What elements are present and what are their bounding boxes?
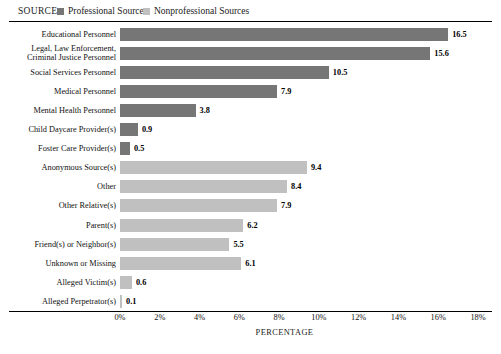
category-label: Other bbox=[0, 182, 116, 191]
bar-value-label: 5.5 bbox=[233, 240, 243, 249]
bar-nonprofessional bbox=[120, 295, 122, 308]
bar-nonprofessional bbox=[120, 257, 241, 270]
bar-with-value: 5.5 bbox=[120, 238, 244, 251]
axis-divider-rule bbox=[9, 311, 492, 312]
category-label: Alleged Perpetrator(s) bbox=[0, 297, 116, 306]
legend-title: SOURCE bbox=[18, 6, 57, 16]
x-axis-tick: 6% bbox=[227, 313, 251, 322]
bar-nonprofessional bbox=[120, 180, 287, 193]
bar-value-label: 0.9 bbox=[142, 125, 152, 134]
bar-professional bbox=[120, 66, 329, 79]
category-label: Friend(s) or Neighbor(s) bbox=[0, 240, 116, 249]
x-axis-tick: 0% bbox=[108, 313, 132, 322]
legend-divider-rule bbox=[9, 21, 492, 22]
legend-swatch-nonprofessional-icon bbox=[143, 8, 150, 15]
bar-nonprofessional bbox=[120, 276, 132, 289]
bar-value-label: 7.9 bbox=[281, 87, 291, 96]
bar-value-label: 0.6 bbox=[136, 278, 146, 287]
x-axis-tick: 8% bbox=[267, 313, 291, 322]
bar-with-value: 15.6 bbox=[120, 47, 449, 60]
x-axis-tick: 4% bbox=[188, 313, 212, 322]
bar-with-value: 9.4 bbox=[120, 161, 321, 174]
bar-value-label: 16.5 bbox=[452, 30, 467, 39]
bar-row: Alleged Perpetrator(s)0.1 bbox=[0, 292, 501, 311]
bar-nonprofessional bbox=[120, 199, 277, 212]
category-label: Unknown or Missing bbox=[0, 259, 116, 268]
x-axis-tick: 14% bbox=[386, 313, 410, 322]
bar-row: Social Services Personnel10.5 bbox=[0, 63, 501, 82]
bar-professional bbox=[120, 142, 130, 155]
legend-label-nonprofessional: Nonprofessional Sources bbox=[154, 6, 249, 16]
x-axis-tick: 10% bbox=[307, 313, 331, 322]
bar-value-label: 15.6 bbox=[434, 49, 449, 58]
bar-with-value: 7.9 bbox=[120, 85, 291, 98]
x-axis-tick: 12% bbox=[347, 313, 371, 322]
bar-with-value: 8.4 bbox=[120, 180, 301, 193]
bar-row: Alleged Victim(s)0.6 bbox=[0, 273, 501, 292]
bar-professional bbox=[120, 85, 277, 98]
bar-value-label: 10.5 bbox=[333, 68, 348, 77]
bar-row: Child Daycare Provider(s)0.9 bbox=[0, 120, 501, 139]
bar-row: Anonymous Source(s)9.4 bbox=[0, 158, 501, 177]
chart-legend: SOURCE Professional Sources Nonprofessio… bbox=[0, 0, 501, 22]
bar-professional bbox=[120, 47, 430, 60]
bar-row: Unknown or Missing6.1 bbox=[0, 254, 501, 273]
bar-value-label: 6.2 bbox=[247, 221, 257, 230]
category-label: Mental Health Personnel bbox=[0, 106, 116, 115]
bar-professional bbox=[120, 28, 448, 41]
legend-label-professional: Professional Sources bbox=[68, 6, 147, 16]
bar-row: Friend(s) or Neighbor(s)5.5 bbox=[0, 235, 501, 254]
legend-entry-nonprofessional-sources: Nonprofessional Sources bbox=[143, 6, 249, 16]
bar-nonprofessional bbox=[120, 219, 243, 232]
bar-with-value: 6.2 bbox=[120, 219, 258, 232]
category-label: Child Daycare Provider(s) bbox=[0, 125, 116, 134]
x-axis-tick: 16% bbox=[426, 313, 450, 322]
x-axis-tick: 2% bbox=[148, 313, 172, 322]
bar-with-value: 7.9 bbox=[120, 199, 291, 212]
bar-row: Parent(s)6.2 bbox=[0, 216, 501, 235]
x-axis-tick: 18% bbox=[466, 313, 490, 322]
x-axis-title: PERCENTAGE bbox=[0, 328, 501, 337]
legend-swatch-professional-icon bbox=[57, 8, 64, 15]
bar-value-label: 8.4 bbox=[291, 182, 301, 191]
bar-with-value: 10.5 bbox=[120, 66, 347, 79]
category-label: Foster Care Provider(s) bbox=[0, 144, 116, 153]
bar-with-value: 0.5 bbox=[120, 142, 144, 155]
bar-row: Other8.4 bbox=[0, 177, 501, 196]
bar-with-value: 6.1 bbox=[120, 257, 256, 270]
bar-row: Educational Personnel16.5 bbox=[0, 25, 501, 44]
bar-value-label: 6.1 bbox=[245, 259, 255, 268]
bar-with-value: 3.8 bbox=[120, 104, 210, 117]
bar-row: Other Relative(s)7.9 bbox=[0, 196, 501, 215]
legend-entry-professional-sources: Professional Sources bbox=[57, 6, 147, 16]
bar-value-label: 0.1 bbox=[126, 297, 136, 306]
bar-with-value: 0.6 bbox=[120, 276, 146, 289]
category-label: Parent(s) bbox=[0, 221, 116, 230]
bar-professional bbox=[120, 104, 196, 117]
bar-with-value: 16.5 bbox=[120, 28, 467, 41]
category-label: Educational Personnel bbox=[0, 30, 116, 39]
bar-chart-plot-area: Educational Personnel16.5Legal, Law Enfo… bbox=[0, 25, 501, 308]
x-axis-tick-labels: 0%2%4%6%8%10%12%14%16%18% bbox=[0, 313, 501, 327]
x-axis-title-text: PERCENTAGE bbox=[256, 328, 314, 337]
bar-value-label: 0.5 bbox=[134, 144, 144, 153]
bar-with-value: 0.1 bbox=[120, 295, 136, 308]
category-label: Alleged Victim(s) bbox=[0, 278, 116, 287]
bar-row: Medical Personnel7.9 bbox=[0, 82, 501, 101]
category-label: Anonymous Source(s) bbox=[0, 163, 116, 172]
bar-value-label: 3.8 bbox=[200, 106, 210, 115]
bar-row: Foster Care Provider(s)0.5 bbox=[0, 139, 501, 158]
bar-nonprofessional bbox=[120, 161, 307, 174]
bar-row: Legal, Law Enforcement, Criminal Justice… bbox=[0, 44, 501, 63]
category-label: Other Relative(s) bbox=[0, 201, 116, 210]
category-label: Social Services Personnel bbox=[0, 68, 116, 77]
category-label: Legal, Law Enforcement, Criminal Justice… bbox=[0, 44, 116, 63]
bar-value-label: 9.4 bbox=[311, 163, 321, 172]
bar-value-label: 7.9 bbox=[281, 201, 291, 210]
bar-with-value: 0.9 bbox=[120, 123, 152, 136]
category-label: Medical Personnel bbox=[0, 87, 116, 96]
bar-row: Mental Health Personnel3.8 bbox=[0, 101, 501, 120]
bar-nonprofessional bbox=[120, 238, 229, 251]
bar-professional bbox=[120, 123, 138, 136]
